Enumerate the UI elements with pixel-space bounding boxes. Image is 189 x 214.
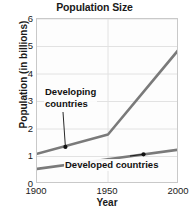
y-tick-3: 3 — [3, 96, 33, 105]
x-axis-tick-labels: 190019502000 — [36, 185, 178, 197]
y-axis-tick-labels: 0123456 — [0, 18, 33, 183]
y-tick-6: 6 — [3, 14, 33, 23]
x-axis-label: Year — [36, 197, 178, 208]
annotation-developing-line1: Developing — [45, 86, 96, 98]
y-tick-2: 2 — [3, 124, 33, 133]
annotation-developing-countries: Developing countries — [44, 86, 97, 109]
annotation-developing-line2: countries — [45, 98, 96, 110]
annotation-developed-countries: Developed countries — [64, 159, 159, 171]
y-tick-1: 1 — [3, 151, 33, 160]
x-tick-2000: 2000 — [158, 185, 189, 196]
y-tick-4: 4 — [3, 69, 33, 78]
x-tick-1950: 1950 — [87, 185, 127, 196]
x-tick-1900: 1900 — [16, 185, 56, 196]
annotation-leader-lines — [63, 112, 144, 156]
y-tick-5: 5 — [3, 41, 33, 50]
population-size-chart: Population Size Population (in billions)… — [0, 0, 189, 214]
plot-area: Developing countries Developed countries — [36, 18, 178, 183]
